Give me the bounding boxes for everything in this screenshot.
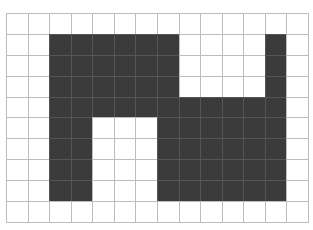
grid-cell-r7-c11[interactable] <box>243 159 265 180</box>
grid-cell-r5-c11[interactable] <box>243 117 265 138</box>
grid-cell-r0-c7[interactable] <box>157 13 179 34</box>
grid-cell-r8-c13[interactable] <box>286 180 308 201</box>
grid-cell-r3-c12[interactable] <box>265 76 287 97</box>
grid-cell-r9-c0[interactable] <box>6 201 28 222</box>
grid-cell-r5-c8[interactable] <box>179 117 201 138</box>
grid-cell-r0-c2[interactable] <box>49 13 71 34</box>
grid-cell-r9-c7[interactable] <box>157 201 179 222</box>
grid-cell-r7-c6[interactable] <box>135 159 157 180</box>
grid-cell-r1-c6[interactable] <box>135 34 157 55</box>
grid-cell-r3-c2[interactable] <box>49 76 71 97</box>
grid-cell-r4-c12[interactable] <box>265 97 287 118</box>
grid-cell-r9-c2[interactable] <box>49 201 71 222</box>
grid-cell-r6-c13[interactable] <box>286 138 308 159</box>
grid-cell-r6-c6[interactable] <box>135 138 157 159</box>
grid-cell-r7-c4[interactable] <box>92 159 114 180</box>
grid-cell-r9-c6[interactable] <box>135 201 157 222</box>
grid-cell-r0-c13[interactable] <box>286 13 308 34</box>
grid-cell-r4-c11[interactable] <box>243 97 265 118</box>
grid-cell-r6-c7[interactable] <box>157 138 179 159</box>
grid-cell-r5-c2[interactable] <box>49 117 71 138</box>
grid-cell-r2-c0[interactable] <box>6 55 28 76</box>
grid-cell-r3-c3[interactable] <box>71 76 93 97</box>
grid-cell-r7-c9[interactable] <box>200 159 222 180</box>
grid-cell-r2-c13[interactable] <box>286 55 308 76</box>
grid-cell-r8-c12[interactable] <box>265 180 287 201</box>
grid-cell-r4-c13[interactable] <box>286 97 308 118</box>
grid-cell-r9-c4[interactable] <box>92 201 114 222</box>
grid-cell-r2-c5[interactable] <box>114 55 136 76</box>
grid-cell-r5-c9[interactable] <box>200 117 222 138</box>
grid-cell-r2-c11[interactable] <box>243 55 265 76</box>
grid-cell-r7-c12[interactable] <box>265 159 287 180</box>
grid-cell-r0-c8[interactable] <box>179 13 201 34</box>
grid-cell-r4-c4[interactable] <box>92 97 114 118</box>
grid-cell-r0-c6[interactable] <box>135 13 157 34</box>
grid-cell-r7-c2[interactable] <box>49 159 71 180</box>
grid-cell-r8-c10[interactable] <box>222 180 244 201</box>
grid-cell-r5-c7[interactable] <box>157 117 179 138</box>
grid-cell-r9-c12[interactable] <box>265 201 287 222</box>
grid-cell-r9-c9[interactable] <box>200 201 222 222</box>
grid-cell-r4-c9[interactable] <box>200 97 222 118</box>
grid-cell-r0-c10[interactable] <box>222 13 244 34</box>
grid-cell-r7-c3[interactable] <box>71 159 93 180</box>
grid-cell-r2-c10[interactable] <box>222 55 244 76</box>
grid-cell-r2-c8[interactable] <box>179 55 201 76</box>
grid-cell-r0-c5[interactable] <box>114 13 136 34</box>
grid-cell-r6-c12[interactable] <box>265 138 287 159</box>
grid-cell-r6-c9[interactable] <box>200 138 222 159</box>
grid-cell-r5-c13[interactable] <box>286 117 308 138</box>
grid-cell-r7-c10[interactable] <box>222 159 244 180</box>
grid-cell-r4-c7[interactable] <box>157 97 179 118</box>
grid-cell-r3-c10[interactable] <box>222 76 244 97</box>
grid-cell-r9-c11[interactable] <box>243 201 265 222</box>
grid-cell-r3-c4[interactable] <box>92 76 114 97</box>
grid-cell-r3-c7[interactable] <box>157 76 179 97</box>
grid-cell-r8-c11[interactable] <box>243 180 265 201</box>
grid-cell-r9-c10[interactable] <box>222 201 244 222</box>
grid-cell-r7-c5[interactable] <box>114 159 136 180</box>
grid-cell-r9-c5[interactable] <box>114 201 136 222</box>
grid-cell-r3-c13[interactable] <box>286 76 308 97</box>
grid-cell-r8-c6[interactable] <box>135 180 157 201</box>
grid-cell-r2-c2[interactable] <box>49 55 71 76</box>
grid-cell-r9-c13[interactable] <box>286 201 308 222</box>
grid-cell-r2-c3[interactable] <box>71 55 93 76</box>
grid-cell-r8-c1[interactable] <box>28 180 50 201</box>
grid-cell-r8-c8[interactable] <box>179 180 201 201</box>
grid-cell-r2-c1[interactable] <box>28 55 50 76</box>
grid-cell-r1-c0[interactable] <box>6 34 28 55</box>
grid-cell-r5-c1[interactable] <box>28 117 50 138</box>
grid-cell-r5-c5[interactable] <box>114 117 136 138</box>
grid-cell-r4-c0[interactable] <box>6 97 28 118</box>
grid-cell-r4-c10[interactable] <box>222 97 244 118</box>
grid-cell-r6-c8[interactable] <box>179 138 201 159</box>
grid-cell-r0-c0[interactable] <box>6 13 28 34</box>
grid-cell-r0-c12[interactable] <box>265 13 287 34</box>
grid-cell-r1-c8[interactable] <box>179 34 201 55</box>
grid-cell-r5-c3[interactable] <box>71 117 93 138</box>
grid-cell-r1-c12[interactable] <box>265 34 287 55</box>
grid-cell-r4-c5[interactable] <box>114 97 136 118</box>
grid-cell-r6-c1[interactable] <box>28 138 50 159</box>
grid-cell-r5-c10[interactable] <box>222 117 244 138</box>
grid-cell-r6-c10[interactable] <box>222 138 244 159</box>
grid-cell-r0-c4[interactable] <box>92 13 114 34</box>
grid-cell-r1-c10[interactable] <box>222 34 244 55</box>
grid-cell-r7-c0[interactable] <box>6 159 28 180</box>
grid-cell-r6-c11[interactable] <box>243 138 265 159</box>
grid-cell-r1-c5[interactable] <box>114 34 136 55</box>
grid-cell-r1-c2[interactable] <box>49 34 71 55</box>
grid-cell-r2-c12[interactable] <box>265 55 287 76</box>
grid-cell-r7-c1[interactable] <box>28 159 50 180</box>
grid-cell-r4-c1[interactable] <box>28 97 50 118</box>
grid-cell-r3-c0[interactable] <box>6 76 28 97</box>
grid-cell-r3-c5[interactable] <box>114 76 136 97</box>
grid-cell-r3-c1[interactable] <box>28 76 50 97</box>
grid-cell-r7-c8[interactable] <box>179 159 201 180</box>
grid-cell-r4-c2[interactable] <box>49 97 71 118</box>
grid-cell-r0-c3[interactable] <box>71 13 93 34</box>
grid-cell-r0-c9[interactable] <box>200 13 222 34</box>
grid-cell-r3-c11[interactable] <box>243 76 265 97</box>
